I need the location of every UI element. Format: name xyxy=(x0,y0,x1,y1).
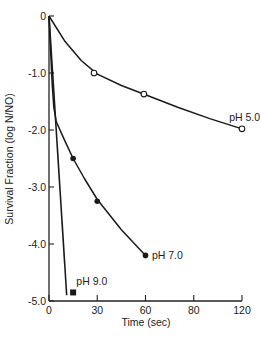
open-circle-marker xyxy=(141,91,147,97)
x-tick-label: 80 xyxy=(188,304,200,316)
series-label: pH 9.0 xyxy=(76,275,107,287)
x-tick-label: 0 xyxy=(46,304,52,316)
curve-ph-5-0 xyxy=(49,16,242,129)
x-tick-label: 120 xyxy=(233,304,251,316)
y-tick-label: -4.0 xyxy=(28,238,46,250)
survival-chart: 0-1.0-2.0-3.0-4.0-5.00306080120 pH 5.0pH… xyxy=(0,0,261,337)
x-tick-label: 30 xyxy=(91,304,103,316)
x-axis-label: Time (sec) xyxy=(121,316,170,328)
filled-square-marker xyxy=(70,289,76,295)
axes: 0-1.0-2.0-3.0-4.0-5.00306080120 xyxy=(28,10,251,316)
series-label: pH 5.0 xyxy=(229,111,260,123)
y-tick-label: -1.0 xyxy=(28,67,46,79)
y-tick-label: 0 xyxy=(40,10,46,22)
filled-circle-marker xyxy=(70,156,76,162)
x-tick-label: 60 xyxy=(140,304,152,316)
series-labels: pH 5.0pH 7.0pH 9.0 xyxy=(76,111,260,287)
curve-ph-7-0 xyxy=(49,16,146,255)
series-label: pH 7.0 xyxy=(152,249,183,261)
curve-ph-9-0 xyxy=(49,16,67,295)
y-tick-label: -3.0 xyxy=(28,181,46,193)
filled-circle-marker xyxy=(94,198,100,204)
data-markers xyxy=(70,70,245,295)
y-axis-label: Survival Fraction (log N/NO) xyxy=(3,93,15,224)
open-circle-marker xyxy=(91,70,97,76)
y-tick-label: -2.0 xyxy=(28,124,46,136)
filled-circle-marker xyxy=(143,253,149,259)
open-circle-marker xyxy=(239,126,245,132)
y-tick-label: -5.0 xyxy=(28,295,46,307)
